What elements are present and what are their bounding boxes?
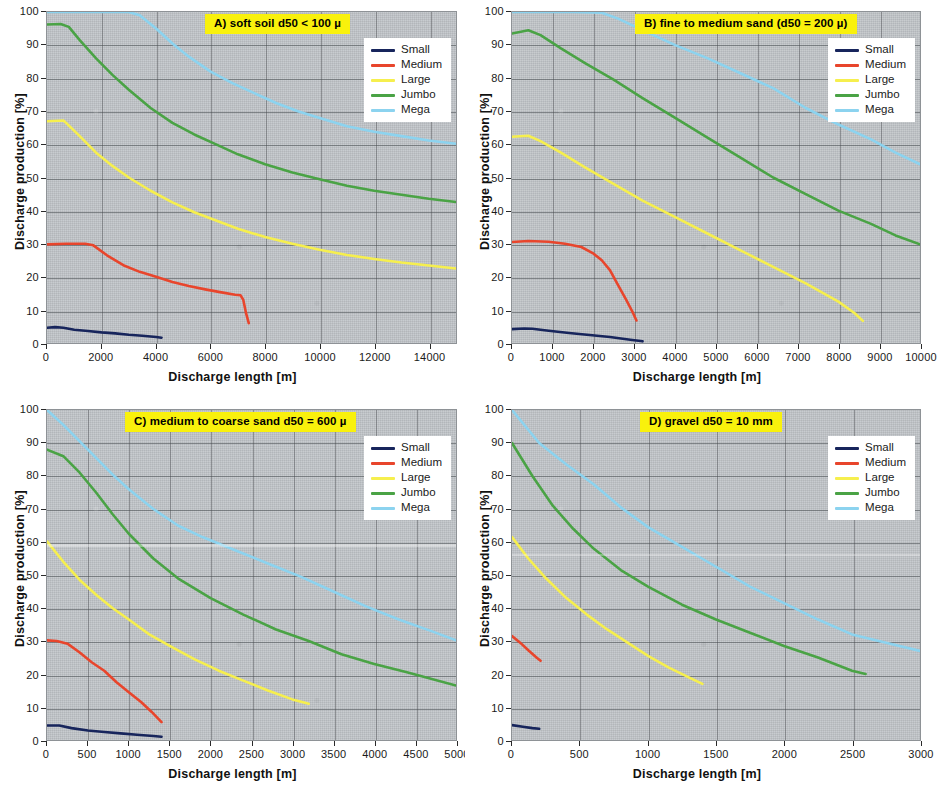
y-tick-label: 0 (465, 338, 504, 350)
x-tick-mark (593, 344, 594, 349)
legend-item-medium[interactable]: Medium (371, 58, 442, 72)
y-tick-label: 10 (0, 702, 39, 714)
legend-item-mega[interactable]: Mega (371, 103, 442, 117)
legend-swatch-medium-icon (371, 64, 395, 67)
x-tick-label: 500 (78, 748, 97, 760)
x-tick-label: 6000 (198, 351, 223, 363)
y-tick-mark (41, 675, 46, 676)
y-tick-mark (41, 311, 46, 312)
legend-swatch-mega-icon (371, 507, 395, 510)
legend-swatch-jumbo-icon (371, 94, 395, 97)
legend-item-mega[interactable]: Mega (835, 103, 906, 117)
series-line-medium (47, 244, 249, 323)
x-tick-label: 2000 (772, 748, 797, 760)
panel-b-inner: Discharge production [%] 010203040506070… (465, 0, 929, 398)
x-tick-label: 3000 (280, 748, 305, 760)
x-tick-mark (798, 344, 799, 349)
legend-item-large[interactable]: Large (835, 73, 906, 87)
legend-swatch-mega-icon (835, 507, 859, 510)
panel-a-legend: SmallMediumLargeJumboMega (364, 38, 451, 122)
y-tick-mark (41, 211, 46, 212)
legend-item-medium[interactable]: Medium (371, 456, 442, 470)
panel-c-title: C) medium to coarse sand d50 = 600 µ (125, 412, 356, 432)
x-tick-mark (511, 741, 512, 746)
x-tick-label: 0 (508, 748, 514, 760)
legend-swatch-jumbo-icon (371, 492, 395, 495)
legend-item-mega[interactable]: Mega (371, 501, 442, 515)
y-tick-mark (41, 111, 46, 112)
y-tick-label: 100 (465, 5, 504, 17)
legend-item-small[interactable]: Small (835, 43, 906, 57)
x-tick-label: 4500 (403, 748, 428, 760)
legend-item-small[interactable]: Small (835, 441, 906, 455)
series-line-medium (47, 640, 162, 722)
x-tick-mark (757, 344, 758, 349)
legend-item-mega[interactable]: Mega (835, 501, 906, 515)
y-tick-mark (41, 244, 46, 245)
y-tick-label: 70 (0, 503, 39, 515)
legend-item-large[interactable]: Large (371, 471, 442, 485)
x-tick-mark (87, 741, 88, 746)
x-tick-mark (839, 344, 840, 349)
y-tick-mark (506, 277, 511, 278)
y-tick-mark (41, 144, 46, 145)
y-tick-label: 40 (465, 602, 504, 614)
chart-panel-a: Discharge production [%] 010203040506070… (0, 0, 465, 398)
y-tick-mark (41, 277, 46, 278)
legend-item-jumbo[interactable]: Jumbo (371, 486, 442, 500)
legend-item-jumbo[interactable]: Jumbo (835, 486, 906, 500)
chart-panel-c: Discharge production [%] 010203040506070… (0, 398, 465, 795)
x-tick-mark (375, 344, 376, 349)
x-tick-label: 2000 (198, 748, 223, 760)
series-line-medium (512, 241, 636, 320)
legend-item-jumbo[interactable]: Jumbo (371, 88, 442, 102)
x-tick-label: 1000 (539, 351, 564, 363)
y-tick-mark (506, 111, 511, 112)
legend-swatch-jumbo-icon (835, 94, 859, 97)
x-tick-mark (210, 344, 211, 349)
legend-item-small[interactable]: Small (371, 43, 442, 57)
legend-label: Mega (401, 104, 430, 116)
x-tick-label: 8000 (253, 351, 278, 363)
legend-label: Jumbo (865, 89, 900, 101)
y-tick-mark (506, 575, 511, 576)
y-tick-label: 70 (465, 503, 504, 515)
x-tick-mark (579, 741, 580, 746)
x-tick-label: 5000 (703, 351, 728, 363)
series-line-small (512, 328, 643, 341)
legend-item-medium[interactable]: Medium (835, 456, 906, 470)
y-tick-label: 90 (0, 436, 39, 448)
legend-swatch-mega-icon (835, 109, 859, 112)
y-tick-mark (506, 675, 511, 676)
legend-label: Large (865, 74, 894, 86)
y-tick-mark (506, 708, 511, 709)
x-tick-mark (375, 741, 376, 746)
legend-swatch-medium-icon (835, 64, 859, 67)
legend-item-jumbo[interactable]: Jumbo (835, 88, 906, 102)
legend-item-large[interactable]: Large (835, 471, 906, 485)
panel-a-title: A) soft soil d50 < 100 µ (205, 14, 350, 34)
panel-d-legend: SmallMediumLargeJumboMega (828, 436, 915, 520)
x-tick-mark (320, 344, 321, 349)
y-tick-label: 0 (465, 735, 504, 747)
legend-item-small[interactable]: Small (371, 441, 442, 455)
legend-swatch-mega-icon (371, 109, 395, 112)
y-tick-label: 80 (0, 469, 39, 481)
y-tick-label: 0 (0, 735, 39, 747)
legend-item-medium[interactable]: Medium (835, 58, 906, 72)
y-tick-mark (506, 244, 511, 245)
x-tick-label: 3000 (621, 351, 646, 363)
x-tick-label: 8000 (826, 351, 851, 363)
y-tick-label: 10 (465, 305, 504, 317)
legend-swatch-small-icon (371, 49, 395, 52)
x-tick-label: 14000 (414, 351, 446, 363)
legend-item-large[interactable]: Large (371, 73, 442, 87)
legend-label: Medium (865, 59, 906, 71)
y-tick-label: 40 (465, 205, 504, 217)
legend-swatch-medium-icon (835, 462, 859, 465)
x-tick-mark (46, 741, 47, 746)
y-tick-mark (41, 78, 46, 79)
y-tick-mark (506, 44, 511, 45)
x-tick-label: 4000 (143, 351, 168, 363)
legend-label: Small (865, 44, 894, 56)
